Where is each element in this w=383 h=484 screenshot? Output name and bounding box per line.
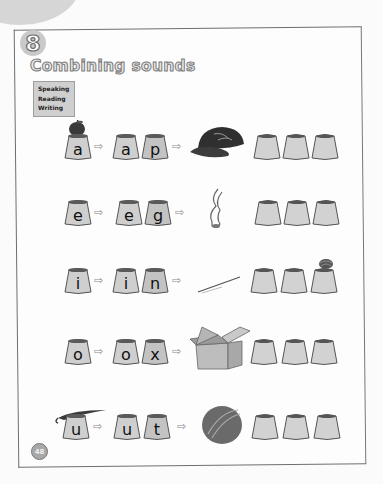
letter-2: n <box>150 274 160 293</box>
letter-2: p <box>150 140 160 159</box>
letter-cup: e <box>115 200 143 226</box>
letter-cup: p <box>141 134 169 160</box>
letter-2: g <box>153 206 163 225</box>
blank-cup[interactable] <box>253 134 281 160</box>
vowel-letter: e <box>73 206 83 225</box>
unit-number: 8 <box>25 31 40 56</box>
vowel-cup: a <box>64 134 92 160</box>
blank-cup[interactable] <box>311 134 339 160</box>
letter-1: o <box>121 345 131 364</box>
pin-icon <box>196 274 242 294</box>
letter-cup: i <box>112 268 140 294</box>
skill-speaking: Speaking <box>38 84 70 94</box>
vowel-letter: i <box>76 274 80 293</box>
skills-box: Speaking Reading Writing <box>33 81 75 117</box>
blank-cup[interactable] <box>313 414 341 440</box>
vowel-cup: e <box>64 200 92 226</box>
letter-cup: o <box>112 339 140 365</box>
letter-cup: a <box>112 134 140 160</box>
vowel-cup: i <box>64 268 92 294</box>
letter-1: i <box>124 274 128 293</box>
letter-1: e <box>124 206 134 225</box>
letter-cup: t <box>143 414 171 440</box>
vowel-letter: a <box>73 140 83 159</box>
vowel-letter: u <box>71 420 81 439</box>
letter-2: t <box>154 420 160 439</box>
exercise-row-u: u ⇨ u t ⇨ <box>0 398 383 448</box>
page-title: Combining sounds <box>30 57 196 75</box>
arrow-icon: ⇨ <box>94 274 103 287</box>
vowel-cup: o <box>64 339 92 365</box>
cap-icon <box>188 124 250 160</box>
blank-cup[interactable] <box>310 268 338 294</box>
blank-cup[interactable] <box>283 200 311 226</box>
vowel-cup: u <box>62 414 90 440</box>
blank-cup[interactable] <box>310 339 338 365</box>
blank-cup[interactable] <box>250 339 278 365</box>
page-number: 48 <box>31 443 48 460</box>
exercise-row-i: i ⇨ i n ⇨ <box>0 254 383 304</box>
leg-icon <box>206 188 228 230</box>
letter-cup: n <box>141 268 169 294</box>
blank-cup[interactable] <box>251 414 279 440</box>
arrow-icon: ⇨ <box>172 345 181 358</box>
blank-cup[interactable] <box>250 268 278 294</box>
vowel-letter: o <box>73 345 83 364</box>
letter-1: a <box>121 140 131 159</box>
box-icon <box>188 325 252 371</box>
exercise-row-a: a ⇨ a p ⇨ <box>0 120 383 170</box>
arrow-icon: ⇨ <box>177 420 186 433</box>
blank-cup[interactable] <box>282 414 310 440</box>
arrow-icon: ⇨ <box>175 206 184 219</box>
page-corner-shadow <box>0 0 80 25</box>
letter-2: x <box>150 345 159 364</box>
exercise-row-o: o ⇨ o x ⇨ <box>0 325 383 375</box>
letter-cup: g <box>144 200 172 226</box>
blank-cup[interactable] <box>312 200 340 226</box>
exercise-row-e: e ⇨ e g ⇨ <box>0 186 383 236</box>
nut-icon <box>200 404 246 446</box>
blank-cup[interactable] <box>280 268 308 294</box>
blank-cup[interactable] <box>282 134 310 160</box>
skill-reading: Reading <box>38 94 70 104</box>
letter-cup: x <box>141 339 169 365</box>
arrow-icon: ⇨ <box>172 140 181 153</box>
unit-number-badge: 8 <box>20 30 46 56</box>
arrow-icon: ⇨ <box>172 274 181 287</box>
arrow-icon: ⇨ <box>94 140 103 153</box>
arrow-icon: ⇨ <box>93 420 102 433</box>
arrow-icon: ⇨ <box>94 206 103 219</box>
blank-cup[interactable] <box>254 200 282 226</box>
blank-cup[interactable] <box>281 339 309 365</box>
letter-1: u <box>122 420 132 439</box>
letter-cup: u <box>113 414 141 440</box>
arrow-icon: ⇨ <box>94 345 103 358</box>
skill-writing: Writing <box>38 103 70 113</box>
